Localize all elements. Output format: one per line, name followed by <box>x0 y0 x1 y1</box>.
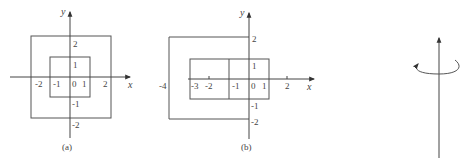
y-tick-label: -2 <box>251 117 259 127</box>
x-tick-label: 0 <box>251 81 256 91</box>
y-axis-label: y <box>60 6 66 17</box>
y-tick-label: 2 <box>252 34 257 44</box>
x-axis-label: x <box>127 79 133 90</box>
y-tick-label: -1 <box>72 99 80 109</box>
y-tick-label: 1 <box>252 61 257 71</box>
y-tick-label: -1 <box>251 101 259 111</box>
figure-a: x y -2 -1 0 1 2 2 1 -1 -2 (a) <box>10 6 133 152</box>
x-tick-label: 0 <box>72 79 77 89</box>
x-tick-label: -4 <box>159 81 167 91</box>
x-axis-label: x <box>306 81 312 92</box>
figure-b: x y -4 -3 -2 -1 0 1 2 2 1 -1 -2 (b) <box>159 7 314 152</box>
y-tick-label: 1 <box>73 60 78 70</box>
x-tick-label: 2 <box>285 81 290 91</box>
diagram-canvas: x y -2 -1 0 1 2 2 1 -1 -2 (a) x y -4 -3 … <box>0 0 474 167</box>
y-tick-label: 2 <box>73 39 78 49</box>
figure-caption: (b) <box>241 142 252 152</box>
rotation-arrow-icon <box>416 60 459 74</box>
x-tick-label: -3 <box>191 81 199 91</box>
x-tick-label: -2 <box>35 79 43 89</box>
x-tick-label: -1 <box>232 81 240 91</box>
y-tick-label: -2 <box>72 120 80 130</box>
x-tick-label: -2 <box>205 81 213 91</box>
figure-caption: (a) <box>62 142 72 152</box>
y-axis-label: y <box>239 7 245 18</box>
x-tick-label: -1 <box>53 79 61 89</box>
x-tick-label: 1 <box>82 79 87 89</box>
figure-c <box>416 38 459 158</box>
x-tick-label: 2 <box>103 79 108 89</box>
x-tick-label: 1 <box>262 81 267 91</box>
